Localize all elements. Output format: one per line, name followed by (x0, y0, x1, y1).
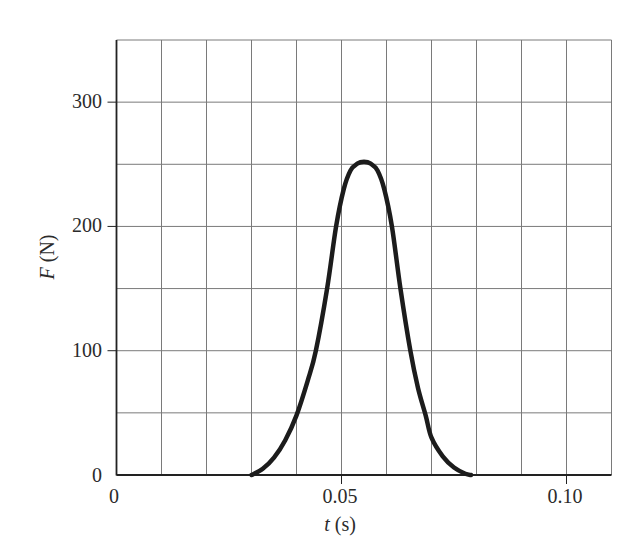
y-tick-label-300: 300 (42, 91, 102, 111)
x-axis-unit: (s) (330, 513, 356, 535)
grid-lines (117, 40, 612, 475)
x-tick-label-0.10: 0.10 (525, 486, 605, 506)
axes (117, 40, 612, 476)
x-axis-title: t (s) (300, 514, 380, 534)
y-axis-variable: F (36, 267, 58, 279)
y-tick-label-0: 0 (42, 465, 102, 485)
x-tick-label-0: 0 (74, 486, 154, 506)
x-tick-label-0.05: 0.05 (300, 486, 380, 506)
y-tick-label-100: 100 (42, 340, 102, 360)
tick-marks (108, 102, 567, 484)
force-curve (252, 162, 472, 475)
y-axis-title: F (N) (37, 207, 57, 307)
y-axis-unit: (N) (36, 235, 58, 268)
